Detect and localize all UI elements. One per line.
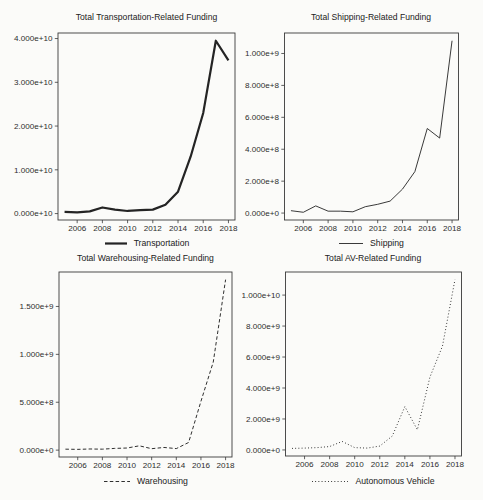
- x-tick-label: 2014: [395, 460, 414, 469]
- x-tick-label: 2012: [144, 224, 163, 233]
- chart-panel-warehousing: Total Warehousing-Related Funding 0.000e…: [0, 250, 242, 500]
- x-tick-label: 2014: [393, 224, 412, 233]
- x-tick-label: 2010: [118, 461, 137, 470]
- legend-warehousing: Warehousing: [59, 475, 232, 487]
- x-tick-label: 2010: [345, 460, 364, 469]
- legend-line-sample-dotted: [311, 478, 349, 485]
- x-tick-label: 2012: [143, 461, 162, 470]
- legend-line-sample-thin-solid: [338, 240, 364, 247]
- legend-transportation: Transportation: [58, 237, 235, 249]
- y-tick-label: 2.000e+10: [14, 122, 53, 131]
- y-tick-label: 4.000e+10: [14, 34, 53, 43]
- shipping-line-plot: 0.000e+02.000e+84.000e+86.000e+88.000e+8…: [242, 0, 483, 250]
- x-tick-label: 2006: [295, 460, 314, 469]
- chart-panel-transportation: Total Transportation-Related Funding 0.0…: [0, 0, 242, 250]
- x-tick-label: 2018: [443, 224, 462, 233]
- y-tick-label: 1.500e+9: [20, 302, 54, 311]
- y-tick-label: 0.000e+0: [246, 446, 280, 455]
- transportation-line-plot: 0.000e+101.000e+102.000e+103.000e+104.00…: [0, 0, 242, 250]
- y-tick-label: 8.000e+9: [246, 322, 280, 331]
- x-tick-label: 2008: [319, 224, 338, 233]
- legend-shipping: Shipping: [284, 237, 458, 249]
- x-tick-label: 2012: [370, 460, 389, 469]
- data-series-line: [65, 41, 229, 213]
- x-tick-label: 2010: [343, 224, 362, 233]
- x-tick-label: 2010: [119, 224, 138, 233]
- y-tick-label: 6.000e+8: [245, 113, 279, 122]
- x-tick-label: 2016: [418, 224, 437, 233]
- x-tick-label: 2018: [217, 461, 236, 470]
- legend-label: Shipping: [370, 238, 404, 248]
- x-tick-label: 2012: [368, 224, 387, 233]
- y-tick-label: 6.000e+9: [246, 353, 280, 362]
- x-tick-label: 2014: [169, 224, 188, 233]
- y-tick-label: 4.000e+9: [246, 384, 280, 393]
- legend-label: Autonomous Vehicle: [355, 476, 434, 486]
- chart-panel-shipping: Total Shipping-Related Funding 0.000e+02…: [242, 0, 483, 250]
- data-series-line: [290, 41, 451, 213]
- y-tick-label: 0.000e+0: [245, 209, 279, 218]
- legend-line-sample-thick-solid: [104, 240, 128, 247]
- x-tick-label: 2006: [294, 224, 313, 233]
- legend-label: Transportation: [134, 238, 190, 248]
- chart-panel-autonomous-vehicle: Total AV-Related Funding 0.000e+02.000e+…: [242, 250, 483, 500]
- x-tick-label: 2018: [219, 224, 238, 233]
- y-tick-label: 1.000e+10: [242, 291, 280, 300]
- x-tick-label: 2014: [167, 461, 186, 470]
- y-tick-label: 2.000e+8: [245, 177, 279, 186]
- y-tick-label: 1.000e+10: [14, 166, 53, 175]
- data-series-line: [65, 280, 225, 450]
- y-tick-label: 2.000e+9: [246, 415, 280, 424]
- x-tick-label: 2008: [320, 460, 339, 469]
- x-tick-label: 2006: [68, 224, 87, 233]
- x-tick-label: 2008: [93, 461, 112, 470]
- x-tick-label: 2008: [93, 224, 112, 233]
- x-tick-label: 2016: [194, 224, 213, 233]
- y-tick-label: 3.000e+10: [14, 78, 53, 87]
- x-tick-label: 2018: [445, 460, 464, 469]
- y-tick-label: 1.000e+9: [20, 350, 54, 359]
- data-series-line: [292, 280, 455, 449]
- y-tick-label: 5.000e+8: [20, 398, 54, 407]
- y-tick-label: 8.000e+8: [245, 81, 279, 90]
- y-tick-label: 0.000e+0: [20, 446, 54, 455]
- y-tick-label: 1.000e+9: [245, 49, 279, 58]
- x-tick-label: 2016: [420, 460, 439, 469]
- legend-autonomous-vehicle: Autonomous Vehicle: [285, 475, 461, 487]
- warehousing-line-plot: 0.000e+05.000e+81.000e+91.500e+920062008…: [0, 250, 242, 500]
- autonomous-vehicle-line-plot: 0.000e+02.000e+94.000e+96.000e+98.000e+9…: [242, 250, 483, 500]
- y-tick-label: 0.000e+10: [14, 209, 53, 218]
- x-tick-label: 2016: [192, 461, 211, 470]
- legend-line-sample-dashed: [103, 478, 131, 485]
- y-tick-label: 4.000e+8: [245, 145, 279, 154]
- x-tick-label: 2006: [69, 461, 88, 470]
- funding-charts-figure: Total Transportation-Related Funding 0.0…: [0, 0, 483, 500]
- legend-label: Warehousing: [137, 476, 188, 486]
